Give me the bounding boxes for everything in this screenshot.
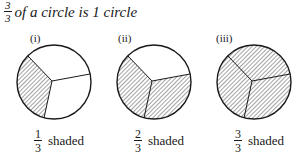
caption-ii: 2 3 shaded	[134, 128, 184, 154]
caption-iii: 3 3 shaded	[234, 128, 284, 154]
shaded-sector	[17, 56, 52, 118]
caption-i: 1 3 shaded	[34, 128, 84, 154]
circle-two-thirds	[117, 45, 191, 119]
circle-one-third	[17, 45, 91, 119]
circle-three-thirds	[217, 45, 291, 119]
